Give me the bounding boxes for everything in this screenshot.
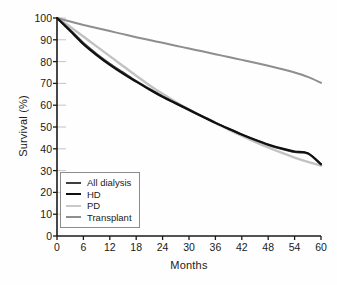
legend-label: Transplant [87, 212, 132, 224]
y-axis-title: Survival (%) [17, 51, 29, 201]
legend-swatch-icon [66, 205, 81, 207]
series-line-all-dialysis [57, 18, 321, 165]
series-line-transplant [57, 18, 321, 83]
survival-chart-figure: 0102030405060708090100 06121824303642485… [0, 0, 337, 285]
series-curves [57, 18, 321, 166]
y-tick-label: 100 [22, 12, 52, 24]
y-tick-label: 90 [22, 34, 52, 46]
legend-label: All dialysis [87, 177, 131, 189]
legend-item: Transplant [66, 212, 132, 224]
legend-item: PD [66, 200, 132, 212]
series-line-pd [57, 18, 321, 166]
x-tick-label: 60 [306, 241, 336, 253]
legend-swatch-icon [66, 182, 81, 184]
legend-swatch-icon [66, 216, 81, 218]
legend-label: HD [87, 189, 101, 201]
y-tick-label: 10 [22, 208, 52, 220]
legend-item: HD [66, 189, 132, 201]
legend-item: All dialysis [66, 177, 132, 189]
series-line-hd [57, 18, 321, 164]
x-tick-labels: 06121824303642485460 [0, 241, 337, 257]
x-axis-title: Months [57, 259, 321, 271]
legend-box: All dialysisHDPDTransplant [60, 172, 140, 228]
legend-label: PD [87, 200, 100, 212]
legend-swatch-icon [66, 193, 81, 195]
